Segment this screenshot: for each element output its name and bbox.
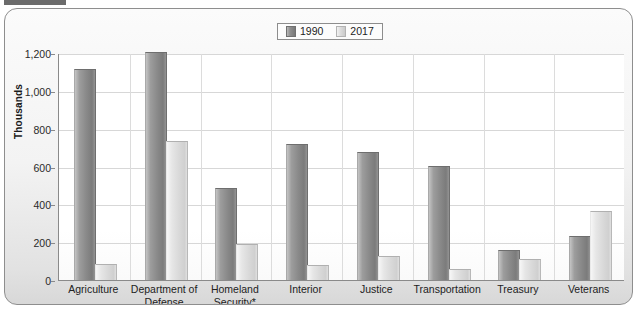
- top-tab-sliver: [4, 0, 66, 5]
- x-axis-label-interior: Interior: [270, 283, 341, 296]
- x-axis-label-homeland-security: HomelandSecurity*: [200, 283, 271, 305]
- category-divider: [130, 54, 131, 280]
- y-axis-tick-mark: [51, 281, 55, 282]
- x-axis-labels: AgricultureDepartment ofDefenseHomelandS…: [58, 283, 624, 305]
- category-divider: [342, 54, 343, 280]
- y-axis-tick-mark: [51, 205, 55, 206]
- chart-panel: 1990 2017 Thousands 02004006008001,0001,…: [4, 8, 633, 305]
- y-axis-tick-label: 1,000: [25, 86, 51, 98]
- bar-treasury-2017[interactable]: [519, 259, 541, 280]
- legend-item-1990[interactable]: 1990: [286, 26, 323, 37]
- category-divider: [201, 54, 202, 280]
- x-axis-label-agriculture: Agriculture: [58, 283, 129, 296]
- bar-treasury-1990[interactable]: [498, 250, 520, 280]
- y-axis-tick-mark: [51, 168, 55, 169]
- category-divider: [413, 54, 414, 280]
- y-axis-tick-label: 200: [33, 237, 51, 249]
- category-divider: [271, 54, 272, 280]
- bar-transportation-1990[interactable]: [428, 166, 450, 281]
- bar-agriculture-2017[interactable]: [95, 264, 117, 280]
- y-axis-tick-label: 600: [33, 162, 51, 174]
- x-axis-label-department-of-defense: Department ofDefense: [129, 283, 200, 305]
- bar-department-of-defense-1990[interactable]: [145, 52, 167, 280]
- bar-veterans-2017[interactable]: [590, 211, 612, 280]
- y-axis-tick-mark: [51, 92, 55, 93]
- bar-justice-1990[interactable]: [357, 152, 379, 280]
- x-axis-label-transportation: Transportation: [412, 283, 483, 296]
- y-axis-tick-label: 1,200: [25, 48, 51, 60]
- y-axis-tick-mark: [51, 54, 55, 55]
- x-axis-label-treasury: Treasury: [483, 283, 554, 296]
- bar-homeland-security-1990[interactable]: [215, 188, 237, 280]
- plot-area: [58, 54, 624, 281]
- bar-department-of-defense-2017[interactable]: [166, 141, 188, 280]
- bar-interior-2017[interactable]: [307, 265, 329, 280]
- y-axis-ticks: 02004006008001,0001,200: [5, 54, 55, 281]
- x-axis-label-veterans: Veterans: [553, 283, 624, 296]
- chart-legend: 1990 2017: [277, 23, 383, 40]
- bar-transportation-2017[interactable]: [449, 269, 471, 280]
- x-axis-label-justice: Justice: [341, 283, 412, 296]
- bar-agriculture-1990[interactable]: [74, 69, 96, 280]
- legend-swatch-icon-1990: [286, 26, 296, 37]
- y-axis-tick-label: 800: [33, 124, 51, 136]
- bar-homeland-security-2017[interactable]: [236, 244, 258, 280]
- category-divider: [554, 54, 555, 280]
- y-axis-tick-label: 400: [33, 199, 51, 211]
- legend-label-2017: 2017: [350, 26, 373, 37]
- legend-swatch-icon-2017: [336, 26, 346, 37]
- bar-interior-1990[interactable]: [286, 144, 308, 280]
- bar-veterans-1990[interactable]: [569, 236, 591, 280]
- y-axis-tick-mark: [51, 130, 55, 131]
- bar-justice-2017[interactable]: [378, 256, 400, 280]
- category-divider: [484, 54, 485, 280]
- legend-item-2017[interactable]: 2017: [336, 26, 373, 37]
- legend-label-1990: 1990: [300, 26, 323, 37]
- y-axis-tick-mark: [51, 243, 55, 244]
